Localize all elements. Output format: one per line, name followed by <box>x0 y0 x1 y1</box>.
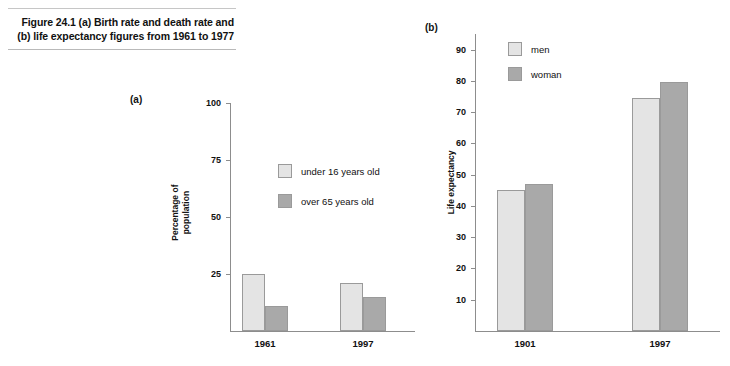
chart-a-bar <box>363 297 386 331</box>
figure-caption-text: Figure 24.1 (a) Birth rate and death rat… <box>8 9 236 49</box>
chart-b-legend-swatch-1 <box>508 67 522 81</box>
chart-b-y-tick-label: 70 <box>435 107 466 117</box>
chart-b-y-tick-label: 10 <box>435 295 466 305</box>
chart-a-y-tick <box>226 160 231 161</box>
chart-b-panel-label: (b) <box>425 22 438 33</box>
chart-a-bar <box>265 306 288 331</box>
chart-b-category-label: 1997 <box>649 338 670 349</box>
chart-b-life-expectancy: (b) Life expectancy 102030405060708090 1… <box>425 22 725 352</box>
chart-a-legend-item-0: under 16 years old <box>278 164 380 178</box>
chart-a-y-tick <box>226 217 231 218</box>
chart-b-y-tick-label: 80 <box>435 76 466 86</box>
chart-a-panel-label: (a) <box>130 94 142 105</box>
chart-b-y-tick <box>471 81 476 82</box>
chart-a-category-label: 1961 <box>254 338 275 349</box>
chart-a-bar <box>242 274 265 331</box>
chart-b-legend-label-0: men <box>531 44 549 55</box>
chart-b-y-tick <box>471 50 476 51</box>
chart-a-x-axis-line <box>230 331 415 332</box>
caption-rule-bottom <box>8 49 236 50</box>
chart-b-legend-item-0: men <box>508 42 549 56</box>
chart-a-y-tick <box>226 274 231 275</box>
chart-b-y-axis-line <box>475 34 476 331</box>
chart-a-y-tick-label: 100 <box>190 98 221 108</box>
chart-b-bar <box>632 98 660 331</box>
chart-b-y-tick-label: 40 <box>435 201 466 211</box>
chart-b-y-tick-label: 50 <box>435 170 466 180</box>
chart-b-y-tick-label: 60 <box>435 138 466 148</box>
chart-a-birth-death-rate: (a) Percentage of population 255075100 1… <box>130 92 420 352</box>
chart-a-y-tick-label: 75 <box>190 155 221 165</box>
chart-b-bar <box>525 184 553 331</box>
figure-caption-block: Figure 24.1 (a) Birth rate and death rat… <box>8 8 236 50</box>
chart-b-y-tick <box>471 206 476 207</box>
chart-b-x-axis-line <box>475 331 720 332</box>
chart-b-y-tick-label: 30 <box>435 232 466 242</box>
chart-b-bar <box>660 82 688 331</box>
chart-a-y-tick-label: 25 <box>190 269 221 279</box>
chart-b-y-tick <box>471 268 476 269</box>
chart-b-legend-swatch-0 <box>508 42 522 56</box>
chart-b-y-tick-label: 90 <box>435 45 466 55</box>
chart-b-category-label: 1901 <box>514 338 535 349</box>
chart-a-legend-label-1: over 65 years old <box>301 196 374 207</box>
chart-a-legend-swatch-0 <box>278 164 292 178</box>
chart-a-y-tick <box>226 103 231 104</box>
chart-b-y-tick <box>471 175 476 176</box>
chart-b-y-tick <box>471 300 476 301</box>
chart-b-y-tick-label: 20 <box>435 263 466 273</box>
chart-a-legend-swatch-1 <box>278 194 292 208</box>
chart-a-legend-label-0: under 16 years old <box>301 166 380 177</box>
chart-a-legend-item-1: over 65 years old <box>278 194 374 208</box>
chart-b-y-tick <box>471 237 476 238</box>
chart-b-y-tick <box>471 112 476 113</box>
chart-b-legend-item-1: woman <box>508 67 562 81</box>
chart-a-y-axis-title: Percentage of population <box>170 158 191 268</box>
chart-a-category-label: 1997 <box>352 338 373 349</box>
chart-a-bar <box>340 283 363 331</box>
chart-b-bar <box>497 190 525 331</box>
chart-b-y-tick <box>471 143 476 144</box>
chart-a-y-tick-label: 50 <box>190 212 221 222</box>
chart-b-legend-label-1: woman <box>531 69 562 80</box>
